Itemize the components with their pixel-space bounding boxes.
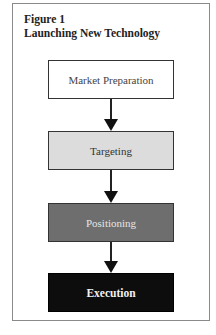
step-execution: Execution: [48, 273, 174, 312]
figure-label: Figure 1: [24, 12, 160, 26]
step-targeting: Targeting: [48, 131, 174, 170]
down-arrow-icon: [104, 170, 118, 203]
step-label: Execution: [86, 287, 135, 299]
down-arrow-icon: [104, 99, 118, 131]
down-arrow-icon: [104, 242, 118, 273]
step-positioning: Positioning: [48, 203, 174, 242]
figure-title-block: Figure 1 Launching New Technology: [24, 12, 160, 40]
step-label: Targeting: [90, 145, 132, 157]
step-market-preparation: Market Preparation: [48, 60, 174, 99]
figure-title: Launching New Technology: [24, 26, 160, 40]
step-label: Positioning: [86, 217, 136, 229]
step-label: Market Preparation: [68, 74, 153, 86]
